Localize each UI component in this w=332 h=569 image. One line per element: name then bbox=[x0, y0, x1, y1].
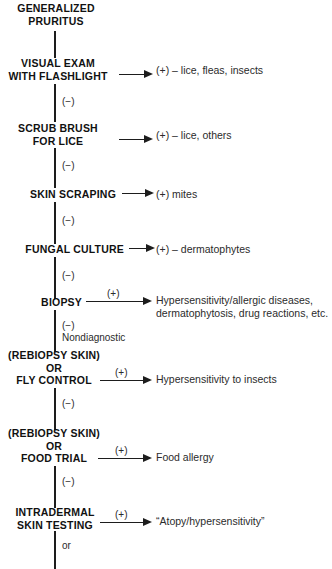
node-line: FLY CONTROL bbox=[0, 374, 108, 387]
node-line: WITH FLASHLIGHT bbox=[0, 70, 116, 83]
arrow-head bbox=[145, 189, 154, 197]
result-line: dermatophytosis, drug reactions, etc. bbox=[156, 307, 328, 320]
node-line: FOR LICE bbox=[0, 135, 116, 148]
result-rebiopsy-food: Food allergy bbox=[156, 451, 214, 464]
branch-label-rebiopsy-food-negative: (−) bbox=[62, 476, 75, 488]
result-intradermal: “Atopy/hypersensitivity” bbox=[156, 515, 265, 528]
arrow-head bbox=[144, 135, 153, 143]
node-intradermal-skin-testing: INTRADERMAL SKIN TESTING bbox=[0, 506, 110, 531]
connector-food-trial-to-intradermal bbox=[54, 466, 56, 508]
node-line: BIOPSY bbox=[0, 296, 82, 309]
arrow-head bbox=[143, 454, 152, 462]
connector-scrub-brush-to-skin-scraping bbox=[54, 148, 56, 188]
branch-label-skin-scraping-negative: (−) bbox=[62, 215, 75, 227]
branch-label-intradermal-or: or bbox=[62, 540, 71, 552]
node-skin-scraping: SKIN SCRAPING bbox=[0, 188, 116, 201]
node-line: (REBIOPSY SKIN) bbox=[0, 427, 108, 440]
arrow-head bbox=[143, 376, 152, 384]
arrow-shaft bbox=[122, 193, 145, 195]
arrow-head bbox=[146, 244, 155, 252]
arrow-visual-exam-positive bbox=[119, 70, 153, 79]
branch-sign: (−) bbox=[62, 320, 125, 332]
arrow-head bbox=[143, 297, 152, 305]
node-line: INTRADERMAL bbox=[0, 506, 110, 519]
arrow-shaft bbox=[98, 458, 143, 460]
result-line: Hypersensitivity/allergic diseases, bbox=[156, 294, 328, 307]
node-line: GENERALIZED bbox=[0, 2, 112, 15]
connector-intradermal-continues bbox=[54, 531, 56, 569]
node-scrub-brush: SCRUB BRUSH FOR LICE bbox=[0, 122, 116, 147]
node-rebiopsy-fly-control: (REBIOPSY SKIN) OR FLY CONTROL bbox=[0, 349, 108, 387]
node-generalized-pruritus: GENERALIZED PRURITUS bbox=[0, 2, 112, 27]
branch-label-scrub-brush-negative: (−) bbox=[62, 160, 75, 172]
node-line: VISUAL EXAM bbox=[0, 57, 116, 70]
connector-biopsy-to-rebiopsy-fly bbox=[54, 310, 56, 352]
node-line: FOOD TRIAL bbox=[0, 452, 108, 465]
node-line: OR bbox=[0, 440, 108, 453]
arrow-head bbox=[143, 518, 152, 526]
arrow-shaft bbox=[86, 301, 143, 303]
arrow-shaft bbox=[119, 74, 144, 76]
arrow-shaft bbox=[100, 380, 143, 382]
arrow-intradermal-positive bbox=[100, 518, 152, 527]
node-line: SKIN TESTING bbox=[0, 519, 110, 532]
node-fungal-culture: FUNGAL CULTURE bbox=[0, 243, 124, 256]
result-visual-exam: (+) – lice, fleas, insects bbox=[156, 64, 263, 77]
arrow-shaft bbox=[100, 522, 143, 524]
arrow-scrub-brush-positive bbox=[119, 135, 153, 144]
branch-label-visual-exam-negative: (−) bbox=[62, 96, 75, 108]
connector-rebiopsy-fly-to-food-trial bbox=[54, 388, 56, 430]
result-fungal-culture: (+) – dermatophytes bbox=[156, 243, 250, 256]
arrow-fungal-culture-positive bbox=[129, 244, 155, 253]
branch-label-fungal-culture-negative: (−) bbox=[62, 270, 75, 282]
branch-label-rebiopsy-fly-negative: (−) bbox=[62, 398, 75, 410]
arrow-rebiopsy-food-positive bbox=[98, 454, 152, 463]
result-biopsy: Hypersensitivity/allergic diseases, derm… bbox=[156, 294, 328, 319]
connector-root-to-visual-exam bbox=[54, 31, 56, 58]
node-line: PRURITUS bbox=[0, 15, 112, 28]
branch-label-biopsy-negative: (−) Nondiagnostic bbox=[62, 320, 125, 344]
branch-sublabel-nondiagnostic: Nondiagnostic bbox=[62, 332, 125, 344]
node-line: OR bbox=[0, 362, 108, 375]
connector-skin-scraping-to-fungal-culture bbox=[54, 202, 56, 244]
node-line: SKIN SCRAPING bbox=[0, 188, 116, 201]
arrow-biopsy-positive bbox=[86, 297, 152, 306]
arrow-head bbox=[144, 70, 153, 78]
node-rebiopsy-food-trial: (REBIOPSY SKIN) OR FOOD TRIAL bbox=[0, 427, 108, 465]
result-rebiopsy-fly: Hypersensitivity to insects bbox=[156, 373, 277, 386]
connector-visual-exam-to-scrub-brush bbox=[54, 84, 56, 122]
result-scrub-brush: (+) – lice, others bbox=[156, 129, 232, 142]
node-line: SCRUB BRUSH bbox=[0, 122, 116, 135]
node-visual-exam: VISUAL EXAM WITH FLASHLIGHT bbox=[0, 57, 116, 82]
result-skin-scraping: (+) mites bbox=[156, 188, 197, 201]
arrow-skin-scraping-positive bbox=[122, 189, 154, 198]
node-line: (REBIOPSY SKIN) bbox=[0, 349, 108, 362]
connector-fungal-culture-to-biopsy bbox=[54, 257, 56, 299]
node-biopsy: BIOPSY bbox=[0, 296, 82, 309]
node-line: FUNGAL CULTURE bbox=[0, 243, 124, 256]
arrow-rebiopsy-fly-positive bbox=[100, 376, 152, 385]
pruritus-diagnostic-flowchart: GENERALIZED PRURITUS VISUAL EXAM WITH FL… bbox=[0, 0, 332, 569]
arrow-shaft bbox=[129, 248, 146, 250]
arrow-shaft bbox=[119, 139, 144, 141]
